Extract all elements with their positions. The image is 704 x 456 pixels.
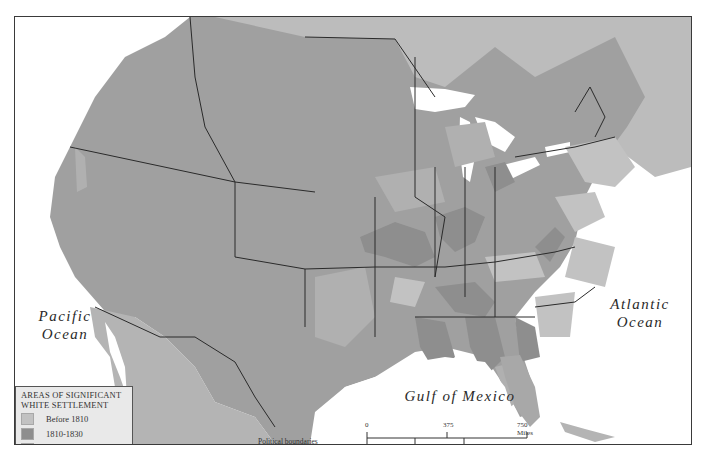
legend-item-1830-1850: 1830-1850 xyxy=(21,443,127,445)
map-frame: Pacific Ocean Atlantic Ocean Gulf of Mex… xyxy=(14,16,692,445)
legend-item-1810-1830: 1810-1830 xyxy=(21,428,127,440)
legend-item-before-1810: Before 1810 xyxy=(21,413,127,425)
map-canvas xyxy=(15,17,691,444)
political-boundaries-note: Political boundaries as of 1820 xyxy=(258,438,318,445)
note-line1: Political boundaries xyxy=(258,438,318,445)
pacific-ocean-label: Pacific Ocean xyxy=(25,307,105,343)
legend-label: 1830-1850 xyxy=(46,444,83,445)
legend-title-line2: WHITE SETTLEMENT xyxy=(21,401,127,411)
scale-bar-lines xyxy=(365,421,565,445)
map-legend: AREAS OF SIGNIFICANT WHITE SETTLEMENT Be… xyxy=(15,386,133,445)
swatch-before-1810 xyxy=(21,413,34,425)
swatch-1810-1830 xyxy=(21,428,34,440)
atlantic-ocean-label: Atlantic Ocean xyxy=(595,295,685,331)
caribbean-islands xyxy=(560,422,615,442)
legend-label: 1810-1830 xyxy=(46,429,83,439)
pacific-label-line1: Pacific xyxy=(25,307,105,325)
atlantic-label-line1: Atlantic xyxy=(595,295,685,313)
scale-bar: 0 375 750 Miles 0 375 750 Kilometers xyxy=(365,421,525,445)
atlantic-label-line2: Ocean xyxy=(595,313,685,331)
legend-label: Before 1810 xyxy=(46,414,88,424)
swatch-1830-1850 xyxy=(21,443,34,445)
gulf-of-mexico-label: Gulf of Mexico xyxy=(385,387,535,405)
pacific-label-line2: Ocean xyxy=(25,325,105,343)
